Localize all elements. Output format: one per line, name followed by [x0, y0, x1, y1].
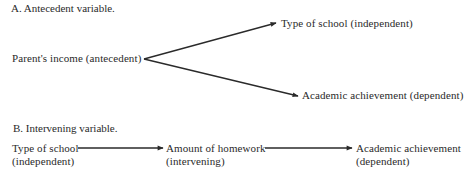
arrow-income-to-school [144, 23, 276, 59]
diagram-arrows [0, 0, 469, 180]
arrow-income-to-achievement [144, 59, 298, 96]
